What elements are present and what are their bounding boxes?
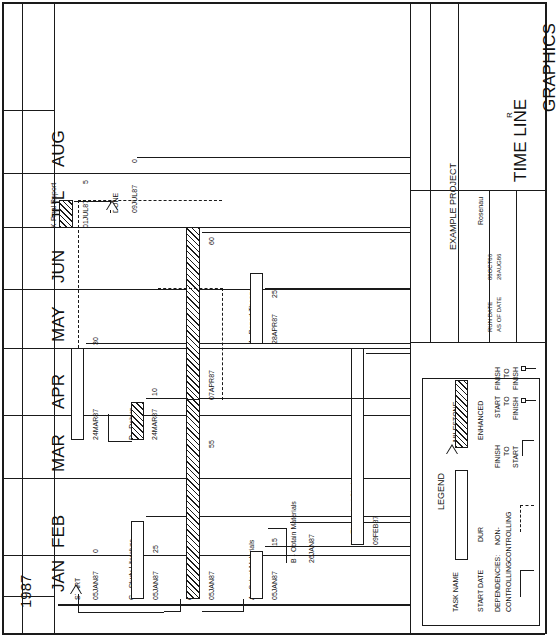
task-start-date-d: 24MAR87 [151,409,158,440]
legend-stf-sample-h [526,400,536,401]
legend-non-controlling-label-2: CONTROLLING [505,511,512,562]
task-dur-a: 15 [271,538,278,546]
month-label-apr: APR [50,374,67,409]
task-start-date-start: 05JAN87 [92,571,99,600]
task-bar-k-final-report [59,200,73,228]
year-strip-divider [22,2,23,634]
legend-finish-to-start-3: START [512,446,519,468]
legend-non-controlling-label-1: NON- [494,527,501,545]
task-bar-j-report-theory [250,273,263,344]
titleblock-right-rule [516,190,517,342]
titleblock-bottom-rule [410,342,545,343]
project-name-label: EXAMPLE PROJECT [449,163,458,250]
month-sep-mar-apr [2,415,410,416]
dep-line-c-in-h [164,611,181,612]
as-of-date-value: 28AUG86 [496,254,502,280]
task-dur-done: 0 [131,159,138,163]
task-dur-e: 60 [208,237,215,245]
task-bar-h-theoretical-study [351,348,364,545]
dep-dashed-e-v [222,288,223,400]
product-title-graphics: GRAPHICS [541,23,558,112]
month-label-feb: FEB [50,515,67,548]
plot-right-edge [410,2,411,634]
task-bar-e-experiment [186,227,200,400]
month-sep-feb-mar [2,478,410,479]
task-bar-d-debug [131,402,144,440]
run-date-label: RUN DATE [487,302,493,332]
task-bar-g-study-literature [131,521,144,599]
titleblock-mid-rule [458,2,459,342]
legend-finish-to-finish-2: TO [503,368,510,378]
legend-controlling-sample-v [520,570,521,597]
legend-task-name-label: TASK NAME [452,572,459,612]
task-start-date-a: 05JAN87 [271,571,278,600]
legend-dur-label: DUR [477,527,484,542]
as-of-date-label: AS OF DATE [496,297,502,332]
month-sep-apr-may [2,348,410,349]
dep-dashed-f-up [78,200,79,348]
legend-finish-to-start-2: TO [503,446,510,456]
legend-enhanced-bar [455,380,468,448]
task-bar-a-select-materials [250,551,263,599]
milestone-done-icon [106,200,118,210]
dep-dashed-e-h [158,288,223,289]
task-label-k-final-report-line1: K-Final Report [50,183,57,228]
month-label-jan: JAN [50,560,67,592]
task-bar-f-document [71,348,84,440]
task-label-k-text: K-Final Report [50,183,57,228]
task-start-date-h: 09FEB87 [372,516,379,545]
legend-non-controlling-sample-h [520,505,534,506]
year-strip-bottom [2,596,54,597]
legend-controlling-label: CONTROLLING [505,561,512,612]
year-label: 1987 [18,575,33,608]
legend-fts-sample-v [522,440,523,456]
legend-enhanced-label: ENHANCED [477,401,484,440]
dep-line-done-out [137,157,410,158]
task-label-b-line1: B - Obtain Materials [290,501,297,563]
month-label-may: MAY [50,306,67,342]
legend-controlling-sample-h [520,570,534,571]
task-start-date-k: 01JUL87 [82,200,89,228]
legend-start-to-finish-3: FINISH [512,397,519,420]
month-sep-may-jun [2,289,410,290]
month-label-aug: AUG [50,130,67,167]
month-sep-aug-end [2,110,54,111]
task-label-b-obtain-materials: B - Obtain Materials [290,501,297,563]
legend-fts-sample-h [522,440,534,441]
task-start-date-done: 09JUL87 [131,185,138,213]
plot-baseline [58,604,410,606]
dep-line-start-down [78,594,79,612]
legend-dependencies-label: DEPENDENCIES: [494,555,501,612]
product-registered-mark: R [506,112,514,118]
product-title-time-line: TIME LINE [512,99,529,182]
month-sep-jan-feb [2,555,410,556]
dep-line-k-to-done [74,201,110,202]
task-bar-b-top [268,528,287,529]
task-dur-g: 25 [152,545,159,553]
task-dur-start: 0 [92,549,99,553]
month-label-mar: MAR [50,434,67,472]
run-date-value: 08OCT86 [487,254,493,280]
dep-line-j-out [265,288,410,289]
month-sep-jul-aug [2,173,410,174]
legend-finish-to-start-1: FINISH [494,445,501,468]
task-dur-d: 10 [151,388,158,396]
dep-line-a-down-h [202,611,244,612]
task-dur-c: 55 [208,440,215,448]
legend-non-controlling-sample-v [520,505,521,532]
task-start-date-e: 07APR87 [208,370,215,400]
task-dur-k: 5 [82,180,89,184]
legend-start-date-label: START DATE [477,570,484,612]
task-start-date-b: 26JAN87 [308,534,315,563]
legend-title: LEGEND [437,473,446,510]
dep-line-h-out [366,353,410,354]
legend-ftf-sample-h [526,368,536,369]
frame-top-border [2,2,545,4]
dep-line-k-out [74,227,410,228]
titleblock-top-rule [410,190,545,191]
legend-finish-to-finish-3: FINISH [512,367,519,390]
frame-bottom-border [2,633,545,635]
legend-start-to-finish-1: START [494,396,501,418]
project-author-label: Rosenau [477,197,484,225]
